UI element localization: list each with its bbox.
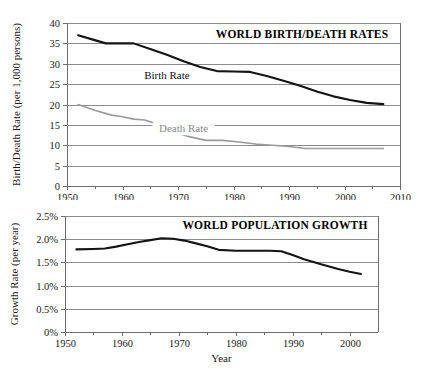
y-tick-label-3: 1.5%	[36, 257, 58, 268]
y-tick-label-0: 0	[55, 181, 60, 192]
chart-title: WORLD BIRTH/DEATH RATES	[216, 28, 388, 40]
x-tick-label-5: 2000	[340, 338, 361, 349]
x-tick-label-5: 2000	[335, 192, 356, 200]
series-line-birth-rate	[78, 35, 383, 104]
x-tick-label-4: 1990	[283, 338, 304, 349]
x-tick-label-2: 1970	[168, 192, 189, 200]
chart-panel-population-growth: 0%0.5%1.0%1.5%2.0%2.5%195019601970198019…	[0, 200, 425, 376]
y-tick-label-0: 0%	[44, 327, 58, 338]
y-tick-label-7: 35	[50, 38, 61, 49]
x-tick-label-1: 1960	[112, 338, 133, 349]
x-tick-label-3: 1980	[224, 192, 245, 200]
series-line-growth-rate	[76, 238, 361, 274]
figure-root: 0510152025303540195019601970198019902000…	[0, 0, 425, 376]
y-axis-title: Growth Rate (per year)	[8, 223, 21, 326]
y-axis-title: Birth/Death Rate (per 1,000 persons)	[10, 23, 23, 186]
y-tick-label-6: 30	[50, 59, 61, 70]
x-tick-label-0: 1950	[55, 338, 76, 349]
x-tick-label-2: 1970	[169, 338, 190, 349]
y-tick-label-4: 20	[50, 100, 61, 111]
chart-title: WORLD POPULATION GROWTH	[182, 219, 367, 231]
series-label-death-rate: Death Rate	[159, 122, 208, 134]
y-tick-label-1: 5	[55, 161, 60, 172]
x-axis-title: Year	[211, 352, 232, 364]
x-tick-label-1: 1960	[113, 192, 134, 200]
series-line-death-rate	[78, 105, 383, 149]
y-tick-label-1: 0.5%	[36, 304, 58, 315]
series-label-birth-rate: Birth Rate	[144, 69, 190, 81]
x-tick-label-0: 1950	[57, 192, 78, 200]
x-tick-label-4: 1990	[279, 192, 300, 200]
chart-panel-birth-death-rates: 0510152025303540195019601970198019902000…	[0, 0, 425, 200]
y-tick-label-3: 15	[50, 120, 61, 131]
y-tick-label-4: 2.0%	[36, 234, 58, 245]
birth-death-rates-svg: 0510152025303540195019601970198019902000…	[0, 0, 425, 200]
x-tick-label-6: 2010	[390, 192, 411, 200]
y-tick-label-2: 1.0%	[36, 281, 58, 292]
y-tick-label-5: 2.5%	[36, 211, 58, 222]
y-tick-label-2: 10	[50, 140, 61, 151]
population-growth-svg: 0%0.5%1.0%1.5%2.0%2.5%195019601970198019…	[0, 200, 425, 376]
y-tick-label-8: 40	[50, 18, 61, 29]
x-tick-label-3: 1980	[226, 338, 247, 349]
y-tick-label-5: 25	[50, 79, 61, 90]
